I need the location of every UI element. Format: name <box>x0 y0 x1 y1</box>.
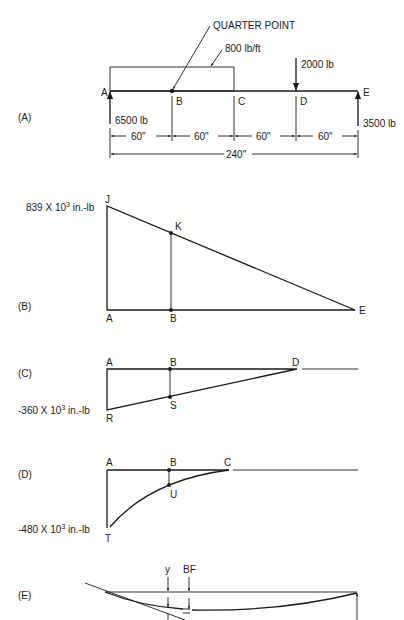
reaction-left-label: 6500 lb <box>115 115 148 126</box>
quarter-point-dot <box>170 89 174 93</box>
point-a-label-d: A <box>106 457 113 468</box>
point-b-label-d: B <box>170 457 177 468</box>
reaction-right-label: 3500 lb <box>363 118 396 129</box>
point-b-label-b: B <box>170 313 177 324</box>
beam-moment-diagrams: (A) QUARTER POINT 800 lb/ft 2000 lb 6500… <box>0 0 404 620</box>
panel-b-label: (B) <box>18 301 31 312</box>
point-a-label: A <box>101 87 108 98</box>
max-moment-label: 839 X 103 in.-lb <box>26 201 95 213</box>
panel-d-label: (D) <box>18 469 32 480</box>
point-k-dot <box>169 231 173 235</box>
point-b-dot <box>169 308 173 312</box>
span-bc-label: 60" <box>194 131 209 142</box>
distributed-load-label: 800 lb/ft <box>225 43 261 54</box>
span-cd-label: 60" <box>256 131 271 142</box>
moment-triangle-c <box>107 369 297 410</box>
y-label: y <box>165 564 170 575</box>
span-de-label: 60" <box>318 131 333 142</box>
point-s-label: S <box>170 400 177 411</box>
panel-c-label: (C) <box>18 368 32 379</box>
point-e-label: E <box>363 87 370 98</box>
moment-d-label: -480 X 103 in.-lb <box>18 523 90 535</box>
bf-label: BF <box>183 564 196 575</box>
span-ab-label: 60" <box>131 131 146 142</box>
point-b-dot-d <box>167 468 171 472</box>
moment-c-label: -360 X 103 in.-lb <box>18 404 90 416</box>
point-d-label-c: D <box>292 357 299 368</box>
point-a-label-b: A <box>106 313 113 324</box>
panel-d-moment-distributed-load: (D) A B C U T -480 X 103 in.-lb <box>18 457 358 544</box>
distributed-load-leader <box>211 50 222 66</box>
point-r-label: R <box>106 413 113 424</box>
panel-a-label: (A) <box>18 112 31 123</box>
deflection-curve-right <box>192 593 357 610</box>
point-s-dot <box>168 395 172 399</box>
point-e-label-b: E <box>359 305 366 316</box>
panel-a-loaded-beam: (A) QUARTER POINT 800 lb/ft 2000 lb 6500… <box>18 20 396 160</box>
panel-b-moment-reaction: (B) 839 X 103 in.-lb J K A B E <box>18 194 366 324</box>
panel-e-deflection: (E) y BF <box>18 564 357 620</box>
point-t-label: T <box>105 533 111 544</box>
point-u-dot <box>167 483 171 487</box>
panel-c-moment-point-load: (C) A B D S R -360 X 103 in.-lb <box>18 357 358 424</box>
point-c-label: C <box>238 96 245 107</box>
point-k-label: K <box>175 221 182 232</box>
point-c-label-d: C <box>224 457 231 468</box>
point-u-label: U <box>170 489 177 500</box>
point-a-label-c: A <box>106 357 113 368</box>
moment-triangle <box>107 206 355 310</box>
total-span-label: 240" <box>226 149 247 160</box>
quarter-point-leader <box>173 26 210 89</box>
point-load-label: 2000 lb <box>301 59 334 70</box>
distributed-load-block <box>110 67 234 91</box>
quarter-point-label: QUARTER POINT <box>213 20 295 31</box>
point-d-label: D <box>300 96 307 107</box>
point-b-label: B <box>176 96 183 107</box>
point-b-label-c: B <box>170 357 177 368</box>
panel-e-label: (E) <box>18 590 31 601</box>
point-j-label: J <box>105 194 110 205</box>
